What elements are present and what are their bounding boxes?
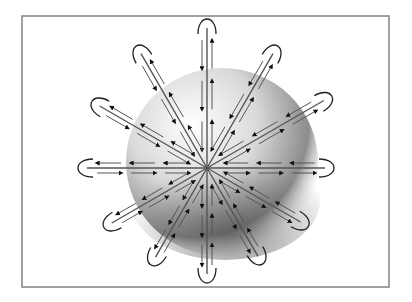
sphere [126,68,320,260]
field-diagram [0,0,412,302]
